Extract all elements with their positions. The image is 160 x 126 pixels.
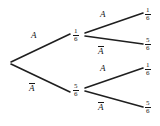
branch-label-stage2-abar-a: A — [100, 64, 106, 73]
fraction-numerator: 5 — [73, 83, 79, 90]
branch-line-stage2-abar-abar — [85, 91, 143, 107]
event-letter: A — [100, 9, 106, 19]
branch-line-stage2-a-a — [85, 13, 143, 33]
branch-line-stage2-a-abar — [85, 36, 143, 44]
branch-line-stage2-abar-a — [85, 68, 143, 88]
branch-line-stage1-a — [11, 34, 70, 62]
fraction-denominator: 6 — [145, 69, 151, 77]
branch-line-stage1-a-bar — [11, 64, 70, 92]
event-letter: A — [100, 63, 106, 73]
branch-label-stage1-a-bar: A — [29, 83, 35, 93]
probability-tree-diagram: A A 1 6 5 6 A A A A 1 6 5 6 1 6 5 6 — [0, 0, 160, 126]
probability-stage1-a: 1 6 — [73, 28, 79, 44]
probability-stage2-abar-abar: 5 6 — [145, 100, 151, 116]
fraction-denominator: 6 — [73, 90, 79, 98]
branch-label-stage2-a-a: A — [100, 10, 106, 19]
fraction-numerator: 5 — [145, 37, 151, 44]
probability-stage2-a-abar: 5 6 — [145, 37, 151, 53]
probability-stage2-a-a: 1 6 — [145, 7, 151, 23]
fraction-numerator: 1 — [73, 28, 79, 35]
fraction-denominator: 6 — [145, 14, 151, 22]
fraction-numerator: 1 — [145, 7, 151, 14]
fraction-numerator: 1 — [145, 62, 151, 69]
branch-label-stage2-abar-abar: A — [98, 102, 104, 112]
branch-label-stage1-a: A — [31, 31, 37, 40]
probability-stage2-abar-a: 1 6 — [145, 62, 151, 78]
fraction-denominator: 6 — [145, 107, 151, 115]
event-letter-complement: A — [29, 83, 35, 93]
fraction-denominator: 6 — [73, 35, 79, 43]
branch-label-stage2-a-abar: A — [98, 46, 104, 56]
event-letter: A — [31, 30, 37, 40]
event-letter-complement: A — [98, 46, 104, 56]
fraction-denominator: 6 — [145, 44, 151, 52]
event-letter-complement: A — [98, 102, 104, 112]
fraction-numerator: 5 — [145, 100, 151, 107]
tree-branch-lines — [0, 0, 160, 126]
probability-stage1-a-bar: 5 6 — [73, 83, 79, 99]
